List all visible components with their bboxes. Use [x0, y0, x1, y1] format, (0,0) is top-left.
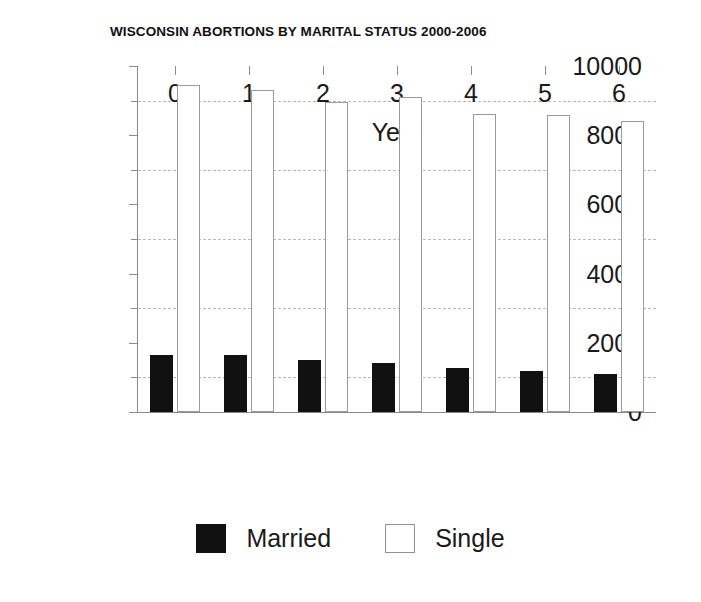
- y-axis-tick: [129, 412, 138, 413]
- legend-swatch-single-icon: [385, 524, 415, 553]
- gridline: [138, 170, 656, 171]
- y-axis-minor-tick: [131, 308, 138, 309]
- legend-label-married: Married: [246, 524, 331, 553]
- bar-married-5: [520, 371, 543, 412]
- y-axis-tick: [129, 66, 138, 67]
- x-axis-tick: [175, 66, 176, 75]
- y-axis-minor-tick: [131, 170, 138, 171]
- legend-item-married[interactable]: Married: [196, 524, 331, 553]
- legend-label-single: Single: [435, 524, 505, 553]
- bar-married-6: [594, 374, 617, 412]
- x-axis-tick: [323, 66, 324, 75]
- bar-single-3: [399, 97, 422, 412]
- gridline: [138, 239, 656, 240]
- bar-single-1: [251, 90, 274, 412]
- bar-single-6: [621, 121, 644, 412]
- x-axis-label: 5: [538, 79, 552, 108]
- chart-title: WISCONSIN ABORTIONS BY MARITAL STATUS 20…: [110, 24, 487, 39]
- bar-married-2: [298, 360, 321, 412]
- bar-single-0: [177, 85, 200, 412]
- bar-single-5: [547, 115, 570, 412]
- x-axis-tick: [545, 66, 546, 75]
- gridline: [138, 308, 656, 309]
- bar-single-4: [473, 114, 496, 412]
- y-axis-tick: [129, 274, 138, 275]
- bar-married-4: [446, 368, 469, 412]
- bar-single-2: [325, 102, 348, 412]
- chart-container: WISCONSIN ABORTIONS BY MARITAL STATUS 20…: [0, 0, 701, 602]
- x-axis-tick: [249, 66, 250, 75]
- y-axis-minor-tick: [131, 239, 138, 240]
- x-axis-tick: [471, 66, 472, 75]
- y-axis-tick: [129, 204, 138, 205]
- x-axis-label: 6: [612, 79, 626, 108]
- x-axis-tick: [397, 66, 398, 75]
- bar-married-1: [224, 355, 247, 412]
- y-axis-minor-tick: [131, 101, 138, 102]
- chart-legend: Married Single: [0, 524, 701, 553]
- gridline: [138, 377, 656, 378]
- x-axis-tick: [619, 66, 620, 75]
- bar-married-3: [372, 363, 395, 412]
- y-axis-label: 10000: [572, 52, 642, 81]
- x-axis-title: Year: [138, 118, 656, 147]
- x-axis-label: 4: [464, 79, 478, 108]
- plot-area: Year 02000400060008000100000123456: [137, 66, 656, 413]
- y-axis-minor-tick: [131, 377, 138, 378]
- legend-swatch-married-icon: [196, 524, 226, 553]
- y-axis-tick: [129, 343, 138, 344]
- bar-married-0: [150, 355, 173, 412]
- y-axis-tick: [129, 135, 138, 136]
- legend-item-single[interactable]: Single: [385, 524, 505, 553]
